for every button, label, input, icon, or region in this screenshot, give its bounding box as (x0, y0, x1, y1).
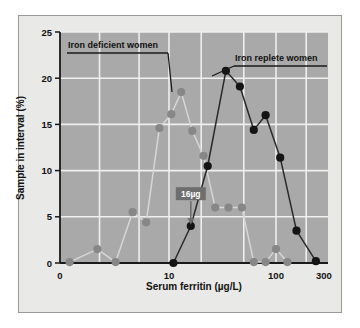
y-tick-label: 10 (41, 165, 52, 176)
y-tick-label: 5 (47, 211, 53, 222)
y-tick-label: 25 (41, 27, 52, 38)
data-point (250, 126, 258, 134)
annotation-label-text: 16µg (181, 189, 201, 199)
data-point (142, 218, 150, 226)
data-point (66, 258, 74, 266)
data-point (292, 227, 300, 235)
y-tick-label: 0 (47, 258, 52, 269)
chart-svg: 0510152025 010100300 16µg Iron deficient… (0, 0, 360, 328)
data-point (155, 124, 163, 132)
series-label-iron-replete-women: Iron replete women (235, 53, 318, 63)
data-point (224, 204, 232, 212)
y-tick-label: 20 (41, 73, 52, 84)
x-tick-label: 100 (268, 270, 284, 281)
data-point (188, 127, 196, 135)
y-axis-title: Sample in interval (%) (15, 96, 26, 200)
y-tick-label: 15 (41, 119, 52, 130)
data-point (167, 110, 175, 118)
series-label-iron-deficient-women: Iron deficient women (68, 40, 158, 50)
data-point (236, 82, 244, 90)
data-point (204, 162, 212, 170)
data-point (129, 208, 137, 216)
data-point (93, 245, 101, 253)
data-point (169, 259, 177, 267)
data-point (276, 154, 284, 162)
data-point (199, 152, 207, 160)
x-tick-label: 10 (164, 270, 175, 281)
data-point (283, 258, 291, 266)
y-axis-ticks: 0510152025 (41, 27, 60, 269)
x-tick-label: 300 (316, 270, 332, 281)
data-point (112, 258, 120, 266)
data-point (238, 204, 246, 212)
data-point (262, 111, 270, 119)
data-point (211, 204, 219, 212)
chart-container: 0510152025 010100300 16µg Iron deficient… (0, 0, 360, 328)
data-point (272, 245, 280, 253)
x-tick-label: 0 (57, 270, 62, 281)
data-point (250, 258, 258, 266)
data-point (177, 88, 185, 96)
data-point (312, 257, 320, 265)
x-axis-ticks: 010100300 (57, 270, 331, 281)
x-axis-title: Serum ferritin (µg/L) (146, 281, 242, 292)
data-point (262, 258, 270, 266)
